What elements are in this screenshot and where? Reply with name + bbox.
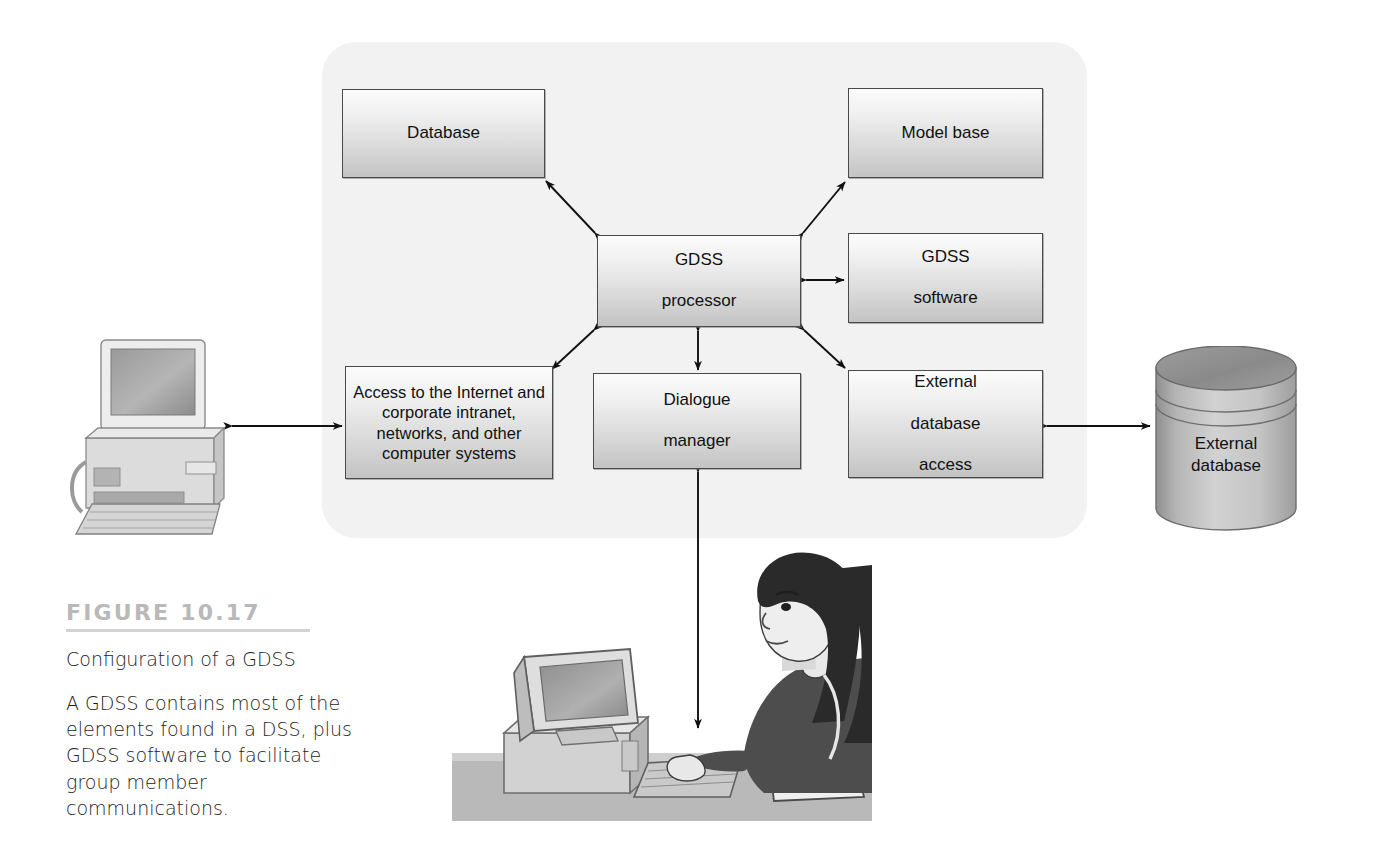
workstation-computer-icon[interactable] [46, 322, 226, 544]
node-dialogue-manager-line1: Dialogue [657, 390, 736, 411]
node-external-db-access-line3: access [905, 455, 987, 476]
figure-description: A GDSS contains most of the elements fou… [66, 690, 362, 821]
external-database-cylinder-line1: External [1195, 434, 1257, 453]
node-dialogue-manager[interactable]: Dialogue manager [593, 373, 801, 469]
node-external-db-access-line1: External [905, 372, 987, 393]
node-gdss-software[interactable]: GDSS software [848, 233, 1043, 323]
node-model-base-label: Model base [896, 123, 996, 144]
node-dialogue-manager-label: Dialogue manager [651, 390, 742, 452]
node-external-database-access[interactable]: External database access [848, 370, 1043, 478]
node-gdss-processor-line2: processor [656, 291, 743, 312]
external-database-cylinder-line2: database [1191, 456, 1261, 475]
node-model-base[interactable]: Model base [848, 88, 1043, 178]
external-database-cylinder-icon[interactable]: External database [1152, 346, 1300, 536]
node-external-db-access-line2: database [905, 414, 987, 435]
node-external-database-access-label: External database access [899, 372, 993, 476]
figure-rule [66, 629, 310, 632]
node-gdss-software-line2: software [907, 288, 983, 309]
node-database-label: Database [401, 123, 486, 144]
node-gdss-software-label: GDSS software [901, 247, 989, 309]
figure-title: Configuration of a GDSS [66, 648, 362, 670]
node-gdss-processor[interactable]: GDSS processor [597, 235, 801, 327]
node-access-internet-label: Access to the Internet and corporate int… [346, 382, 552, 463]
node-gdss-processor-label: GDSS processor [650, 250, 749, 312]
node-access-internet[interactable]: Access to the Internet and corporate int… [345, 366, 553, 479]
node-gdss-processor-line1: GDSS [656, 250, 743, 271]
figure-caption: FIGURE 10.17 Configuration of a GDSS A G… [66, 600, 362, 821]
node-database[interactable]: Database [342, 89, 545, 178]
figure-canvas: Database Model base GDSS processor GDSS … [0, 0, 1380, 846]
node-gdss-software-line1: GDSS [907, 247, 983, 268]
node-dialogue-manager-line2: manager [657, 431, 736, 452]
figure-number: FIGURE 10.17 [66, 600, 362, 625]
group-member-person-illustration [452, 545, 872, 837]
